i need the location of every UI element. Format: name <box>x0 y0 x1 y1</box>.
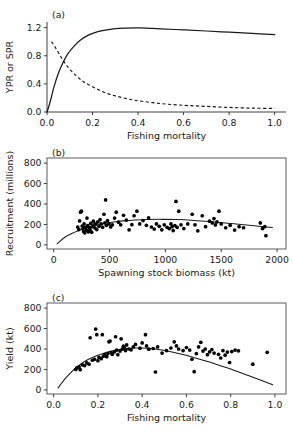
panel-b-data-point <box>85 216 89 220</box>
panel-c-y-tick-label: 200 <box>24 364 42 375</box>
panel-c-x-tick-label: 0.6 <box>179 399 194 410</box>
panel-a-svg: (a)0.00.40.81.20.00.20.40.60.81.0Fishing… <box>0 0 293 145</box>
panel-b-data-point <box>119 223 123 227</box>
panel-c-data-point <box>165 349 169 353</box>
panel-b-tag: (b) <box>52 147 65 158</box>
panel-c-data-point <box>226 350 230 354</box>
panel-b-data-point <box>263 225 267 229</box>
panel-b-data-point <box>200 214 204 218</box>
panel-c-data-point <box>177 347 181 351</box>
panel-b-y-tick-label: 0 <box>36 239 42 250</box>
panel-c-x-tick-label: 0.4 <box>135 399 150 410</box>
panel-c-data-point <box>140 341 144 345</box>
panel-b-data-point <box>212 217 216 221</box>
panel-b-data-point <box>77 228 81 232</box>
panel-b-recruitment: (b)02004006008000500100015002000Spawning… <box>0 145 293 290</box>
panel-c-data-point <box>217 352 221 356</box>
panel-c-data-point <box>188 348 192 352</box>
panel-b-data-point <box>152 227 156 231</box>
panel-b-data-point <box>92 219 96 223</box>
panel-b-data-point <box>193 223 197 227</box>
panel-c-data-point <box>116 353 120 357</box>
panel-c-data-point <box>221 349 225 353</box>
panel-b-frame <box>47 158 286 249</box>
panel-b-data-point <box>104 198 108 202</box>
panel-c-svg: (c)02004006008000.00.20.40.60.81.0Fishin… <box>0 290 293 436</box>
panel-b-y-axis-title: Recruitment (millions) <box>4 151 15 256</box>
panel-b-data-point <box>99 222 103 226</box>
panel-b-data-point <box>102 212 106 216</box>
panel-c-data-point <box>93 357 97 361</box>
panel-b-data-point <box>127 228 131 232</box>
panel-b-x-tick-label: 1500 <box>209 254 233 265</box>
panel-b-data-point <box>124 218 128 222</box>
panel-a-x-tick-label: 0.0 <box>40 117 55 128</box>
panel-b-data-point <box>215 220 219 224</box>
panel-a-y-tick-label: 1.2 <box>27 22 42 33</box>
panel-c-data-point <box>151 347 155 351</box>
panel-b-x-tick-label: 2000 <box>265 254 289 265</box>
panel-b-data-point <box>95 228 99 232</box>
panel-b-y-tick-label: 800 <box>24 157 42 168</box>
panel-b-svg: (b)02004006008000500100015002000Spawning… <box>0 145 293 290</box>
panel-b-data-point <box>135 209 139 213</box>
panel-c-data-point <box>106 352 110 356</box>
panel-c-data-point <box>78 368 82 372</box>
panel-b-data-point <box>80 209 84 213</box>
panel-b-data-point <box>224 226 228 230</box>
panel-c-data-point <box>124 349 128 353</box>
panel-c-frame <box>47 303 286 394</box>
panel-c-data-point <box>125 343 129 347</box>
panel-c-data-point <box>119 337 123 341</box>
panel-b-data-point <box>210 221 214 225</box>
panel-c-data-point <box>144 333 148 337</box>
panel-c-x-tick-label: 0.2 <box>90 399 105 410</box>
panel-b-data-point <box>132 214 136 218</box>
panel-a-x-tick-label: 0.4 <box>131 117 146 128</box>
panel-b-data-point <box>98 218 102 222</box>
panel-c-data-point <box>219 356 223 360</box>
panel-b-x-tick-label: 500 <box>101 254 119 265</box>
panel-c-x-tick-label: 0.8 <box>223 399 238 410</box>
panel-c-fit-curve <box>58 348 273 388</box>
panel-c-y-tick-label: 600 <box>24 323 42 334</box>
panel-b-x-axis-title: Spawning stock biomass (kt) <box>98 267 235 278</box>
panel-c-data-point <box>237 349 241 353</box>
panel-c-data-point <box>210 348 214 352</box>
panel-c-data-point <box>156 345 160 349</box>
panel-a-curve-ypr <box>47 28 275 112</box>
panel-c-y-tick-label: 0 <box>36 384 42 395</box>
panel-c-data-point <box>190 357 194 361</box>
panel-b-data-point <box>204 225 208 229</box>
panel-a-y-tick-label: 0.8 <box>27 50 42 61</box>
panel-c-data-point <box>100 333 104 337</box>
panel-b-data-point <box>147 216 151 220</box>
panel-b-data-point <box>130 223 134 227</box>
panel-c-data-point <box>195 352 199 356</box>
panel-b-y-tick-label: 200 <box>24 219 42 230</box>
panel-c-data-point <box>88 336 92 340</box>
panel-c-data-point <box>230 350 234 354</box>
panel-c-data-point <box>95 333 99 337</box>
panel-b-x-tick-label: 1000 <box>154 254 178 265</box>
panel-b-data-point <box>182 227 186 231</box>
panel-c-data-point <box>154 370 158 374</box>
panel-c-y-tick-label: 400 <box>24 343 42 354</box>
panel-c-data-point <box>169 346 173 350</box>
panel-a-ypr-spr: (a)0.00.40.81.20.00.20.40.60.81.0Fishing… <box>0 0 293 145</box>
panel-b-data-point <box>141 219 145 223</box>
panel-c-data-point <box>172 340 176 344</box>
panel-c-data-point <box>197 345 201 349</box>
panel-c-data-point <box>160 351 164 355</box>
panel-b-data-point <box>177 209 181 213</box>
panel-c-data-point <box>228 361 232 365</box>
panel-b-data-point <box>242 226 246 230</box>
panel-b-data-point <box>190 212 194 216</box>
panel-b-data-point <box>157 224 161 228</box>
panel-c-data-point <box>114 335 118 339</box>
panel-b-data-point <box>110 223 114 227</box>
panel-c-data-point <box>181 349 185 353</box>
panel-b-data-point <box>258 221 262 225</box>
panel-a-curve-spr <box>52 42 275 109</box>
panel-c-data-point <box>87 362 91 366</box>
